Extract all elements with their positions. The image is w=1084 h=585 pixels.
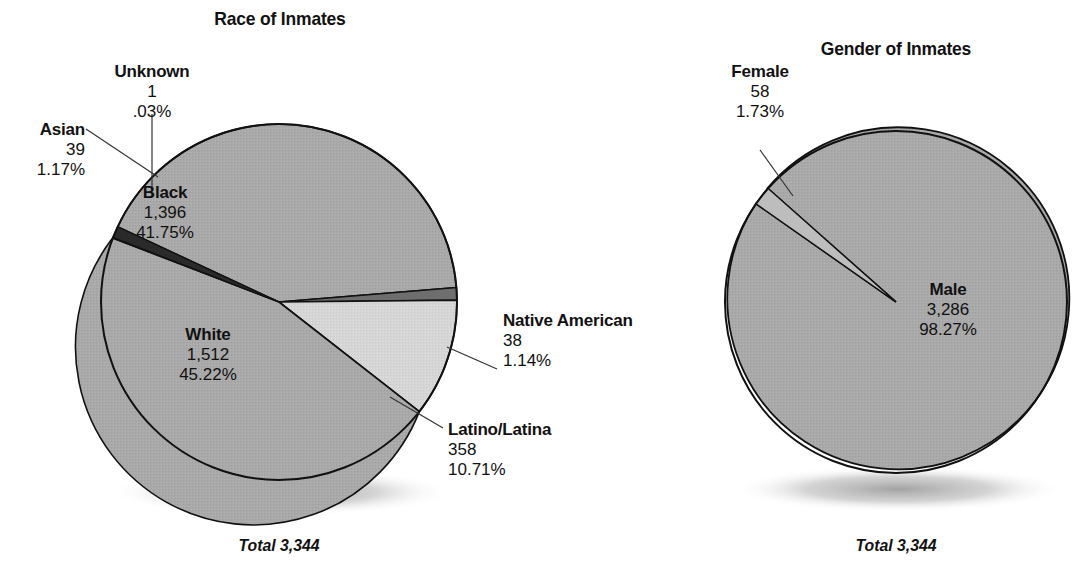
label-latino-name: Latino/Latina [448,420,551,440]
label-latino: Latino/Latina 358 10.71% [448,420,551,480]
label-white: White 1,512 45.22% [133,325,283,385]
label-female-name: Female [700,62,820,82]
label-female: Female 58 1.73% [700,62,820,122]
label-white-count: 1,512 [133,345,283,365]
label-black-count: 1,396 [90,203,240,223]
label-female-percent: 1.73% [700,102,820,122]
label-male-count: 3,286 [888,300,1008,320]
label-unknown: Unknown 1 .03% [92,62,212,122]
label-unknown-percent: .03% [92,102,212,122]
label-white-name: White [133,325,283,345]
label-male-percent: 98.27% [888,320,1008,340]
label-black: Black 1,396 41.75% [90,183,240,243]
race-total-label: Total 3,344 [177,536,382,556]
label-native-american-percent: 1.14% [503,351,633,371]
label-native-american-name: Native American [503,311,633,331]
label-asian-name: Asian [0,120,85,140]
label-latino-count: 358 [448,440,551,460]
label-latino-percent: 10.71% [448,460,551,480]
label-native-american: Native American 38 1.14% [503,311,633,371]
label-asian-percent: 1.17% [0,160,85,180]
race-chart-title: Race of Inmates [160,8,399,30]
label-unknown-count: 1 [92,82,212,102]
label-male-name: Male [888,280,1008,300]
label-male: Male 3,286 98.27% [888,280,1008,340]
label-asian-count: 39 [0,140,85,160]
label-native-american-count: 38 [503,331,633,351]
figure-root: Race of Inmates Gender of Inmates Total … [0,0,1084,585]
label-black-name: Black [90,183,240,203]
gender-chart-title: Gender of Inmates [776,38,1015,60]
label-white-percent: 45.22% [133,365,283,385]
label-asian: Asian 39 1.17% [0,120,85,180]
native-american-leader-line [447,347,497,369]
asian-leader-line [86,129,158,177]
label-black-percent: 41.75% [90,223,240,243]
label-female-count: 58 [700,82,820,102]
label-unknown-name: Unknown [92,62,212,82]
gender-total-label: Total 3,344 [794,536,999,556]
